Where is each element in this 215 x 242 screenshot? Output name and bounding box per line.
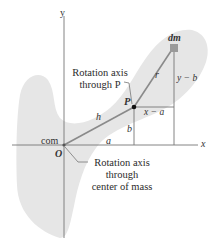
p-label: P [124,97,130,108]
x-axis-label: x [201,139,205,149]
y-minus-b-label: y − b [177,74,197,84]
axis-com-callout-line-2: through [84,169,160,181]
point-origin [62,143,65,146]
axis-com-callout: Rotation axis through center of mass [84,157,160,193]
a-label: a [106,136,111,146]
h-label: h [96,112,101,122]
y-axis-label: y [60,8,65,18]
dm-label: dm [168,33,181,43]
axis-p-callout-line-1: Rotation axis [68,67,132,79]
x-minus-a-label: x − a [144,108,164,118]
axis-com-callout-line-1: Rotation axis [84,157,160,169]
com-label: com [41,136,58,146]
diagram-svg [0,0,215,242]
axis-p-callout-line-2: through P [68,79,132,91]
origin-label: O [55,149,62,159]
axis-p-callout: Rotation axis through P [68,67,132,91]
r-label: r [155,70,159,80]
point-p [132,105,137,110]
axis-com-callout-line-3: center of mass [84,181,160,193]
rigid-body-shape [16,30,207,238]
mass-element-dm [170,44,178,52]
b-label: b [127,124,132,134]
diagram-canvas: y x O com P dm h r a b x − a y − b Rotat… [0,0,215,242]
